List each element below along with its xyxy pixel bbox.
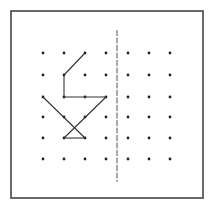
grid-dot (42, 116, 45, 119)
grid-dot (169, 96, 172, 99)
grid-dot (84, 158, 87, 161)
grid-dot (127, 137, 130, 140)
grid-dot (169, 158, 172, 161)
grid-dot (169, 137, 172, 140)
grid-dot (169, 74, 172, 77)
grid-dot (127, 74, 130, 77)
grid-dot (148, 74, 151, 77)
grid-dot (127, 52, 130, 55)
drawn-shape (43, 53, 106, 138)
dot-grid-reflection-figure (0, 0, 212, 208)
frame-border (11, 11, 203, 198)
grid-dot (169, 116, 172, 119)
grid-dot (127, 116, 130, 119)
grid-dot (127, 158, 130, 161)
dot-grid (42, 52, 172, 161)
grid-dot (148, 116, 151, 119)
grid-dot (169, 52, 172, 55)
grid-dot (42, 74, 45, 77)
shape-segment (64, 53, 85, 75)
grid-dot (148, 52, 151, 55)
grid-dot (148, 96, 151, 99)
grid-dot (84, 74, 87, 77)
grid-dot (105, 74, 108, 77)
grid-dot (105, 137, 108, 140)
grid-dot (42, 52, 45, 55)
grid-dot (105, 52, 108, 55)
grid-dot (63, 158, 66, 161)
grid-dot (105, 158, 108, 161)
grid-dot (148, 137, 151, 140)
shape-segment (64, 97, 106, 138)
grid-dot (63, 52, 66, 55)
grid-dot (42, 137, 45, 140)
grid-dot (42, 158, 45, 161)
grid-dot (148, 158, 151, 161)
grid-dot (105, 116, 108, 119)
shape-segment (43, 97, 85, 138)
grid-dot (127, 96, 130, 99)
